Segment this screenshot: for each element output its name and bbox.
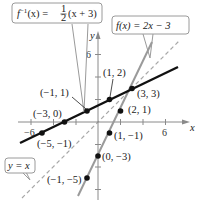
x-tick-label-6: 6 bbox=[162, 127, 167, 138]
label-3-3: (3, 3) bbox=[137, 88, 160, 100]
label-m3-0: (−3, 0) bbox=[33, 108, 62, 120]
point-3-3 bbox=[129, 86, 135, 92]
finv-frac-den: 2 bbox=[61, 12, 66, 23]
point-1-2 bbox=[107, 97, 113, 103]
label-m1-1: (−1, 1) bbox=[40, 87, 69, 99]
point-m5-m1 bbox=[39, 130, 45, 136]
finv-callout-suffix: (x + 3) bbox=[68, 8, 97, 20]
label-1-2: (1, 2) bbox=[103, 67, 126, 79]
x-axis-label: x bbox=[189, 122, 195, 133]
label-1-m1: (1, −1) bbox=[114, 130, 143, 142]
point-2-1 bbox=[118, 108, 124, 114]
point-m3-0 bbox=[62, 119, 68, 125]
leader-1-2 bbox=[110, 79, 113, 97]
f-line bbox=[78, 42, 152, 196]
y-axis bbox=[95, 31, 101, 200]
point-0-m3 bbox=[95, 153, 101, 159]
identity-line bbox=[22, 40, 180, 198]
graph-canvas: x y −6 6 6 f−1(x) = 1 2 (x + 3) f(x) = 2… bbox=[0, 0, 201, 206]
yx-callout-text: y = x bbox=[7, 160, 30, 171]
leader-m1-1 bbox=[72, 97, 86, 109]
f-callout-text: f(x) = 2x − 3 bbox=[116, 20, 170, 32]
label-0-m3: (0, −3) bbox=[102, 151, 131, 163]
point-m1-1 bbox=[84, 108, 90, 114]
point-1-m1 bbox=[107, 130, 113, 136]
y-axis-label: y bbox=[89, 30, 95, 41]
x-axis bbox=[18, 119, 190, 125]
label-m5-m1: (−5, −1) bbox=[37, 138, 72, 150]
f-callout-leader bbox=[143, 34, 153, 58]
label-2-1: (2, 1) bbox=[128, 104, 151, 116]
label-m1-m5: (−1, −5) bbox=[47, 174, 82, 186]
point-m1-m5 bbox=[84, 175, 90, 181]
